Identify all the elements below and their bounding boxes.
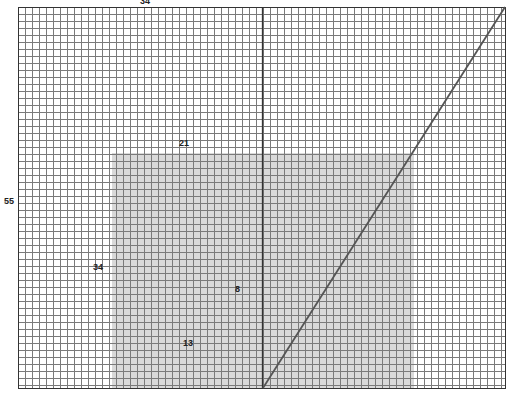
fibonacci-grid-diagram [0,0,508,398]
fibonacci-label: 8 [235,285,240,294]
fibonacci-label: 21 [179,139,189,148]
fibonacci-label: 13 [183,339,193,348]
fibonacci-label: 55 [4,197,14,206]
fibonacci-label: 34 [140,0,150,6]
fibonacci-label: 34 [93,263,103,272]
